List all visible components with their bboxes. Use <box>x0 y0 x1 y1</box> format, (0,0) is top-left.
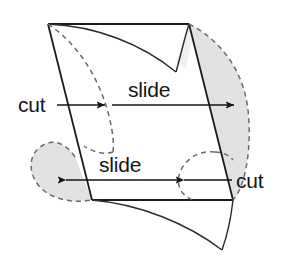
diagram-root: cut slide slide cut <box>0 0 287 259</box>
label-slide-bottom: slide <box>99 153 141 176</box>
cut-and-slide-diagram: cut slide slide cut <box>0 0 287 259</box>
label-slide-top: slide <box>128 78 170 101</box>
label-cut-right: cut <box>236 169 264 192</box>
label-cut-left: cut <box>18 93 46 116</box>
